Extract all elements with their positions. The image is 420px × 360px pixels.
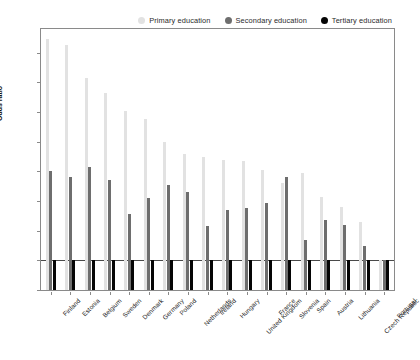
x-axis-tick-mark: [168, 292, 169, 295]
y-axis-tick: 3.0: [0, 201, 40, 202]
bar: [343, 225, 346, 290]
bar-group: [80, 29, 100, 290]
x-axis-tick-label: Finland: [61, 297, 81, 317]
bar: [226, 210, 229, 290]
legend-label: Primary education: [149, 16, 210, 25]
x-axis-tick-mark: [384, 292, 385, 295]
bar: [347, 260, 350, 290]
bar: [324, 220, 327, 290]
bar: [265, 203, 268, 290]
x-axis-tick-mark: [110, 292, 111, 295]
x-axis-tick-label: Austria: [335, 297, 355, 317]
bar: [269, 260, 272, 290]
x-axis-tick-mark: [286, 292, 287, 295]
bar-group: [178, 29, 198, 290]
bar: [206, 226, 209, 290]
bar: [112, 260, 115, 290]
bar: [245, 208, 248, 290]
bar-group: [355, 29, 375, 290]
bar: [49, 171, 52, 290]
bar: [379, 260, 382, 290]
y-axis-tick: 5.0: [0, 142, 40, 143]
y-axis-tick-mark: [37, 290, 40, 291]
bar-group: [237, 29, 257, 290]
bar: [65, 45, 68, 290]
x-axis-tick-mark: [325, 292, 326, 295]
bar-group: [316, 29, 336, 290]
bar: [124, 111, 127, 290]
x-axis-tick-mark: [306, 292, 307, 295]
x-axis-tick-label: Lithuania: [357, 297, 381, 321]
bar: [128, 214, 131, 290]
x-axis-tick-mark: [51, 292, 52, 295]
bar-group: [374, 29, 394, 290]
x-axis-tick-mark: [149, 292, 150, 295]
y-axis-tick-mark: [37, 112, 40, 113]
bar: [104, 93, 107, 290]
bar: [151, 260, 154, 290]
y-axis-tick: 0.0: [0, 290, 40, 291]
y-axis-tick: 1.0: [0, 260, 40, 261]
y-axis-tick: 8.0: [0, 53, 40, 54]
bar-group: [218, 29, 238, 290]
x-axis-tick-mark: [247, 292, 248, 295]
y-axis-tick-mark: [37, 142, 40, 143]
bar: [144, 119, 147, 290]
bar: [92, 260, 95, 290]
bar: [88, 167, 91, 290]
x-axis-tick-mark: [129, 292, 130, 295]
y-axis-tick-mark: [37, 171, 40, 172]
bar: [108, 180, 111, 290]
legend-entry[interactable]: Secondary education: [225, 16, 307, 25]
bar: [170, 260, 173, 290]
bar: [281, 183, 284, 290]
bar-group: [61, 29, 81, 290]
legend-entry[interactable]: Primary education: [138, 16, 210, 25]
x-axis-tick-mark: [70, 292, 71, 295]
x-axis-tick-mark: [90, 292, 91, 295]
bar-group: [139, 29, 159, 290]
bar: [308, 260, 311, 290]
legend-marker-icon: [138, 17, 145, 24]
bar: [72, 260, 75, 290]
x-axis-tick-label: Portugal: [395, 297, 417, 319]
bar-group: [257, 29, 277, 290]
x-axis-tick-mark: [267, 292, 268, 295]
bar: [304, 240, 307, 290]
legend-marker-icon: [321, 17, 328, 24]
x-axis-tick-label: Estonia: [81, 297, 102, 318]
bar-group: [159, 29, 179, 290]
legend-entry[interactable]: Tertiary education: [321, 16, 392, 25]
bar: [285, 177, 288, 290]
x-axis-tick-mark: [188, 292, 189, 295]
bar: [261, 170, 264, 290]
bar: [288, 260, 291, 290]
bar: [46, 39, 49, 290]
bar: [202, 157, 205, 290]
bar-group: [335, 29, 355, 290]
y-axis-tick-mark: [37, 231, 40, 232]
chart-legend: Primary educationSecondary educationTert…: [140, 12, 392, 28]
bar: [210, 260, 213, 290]
x-axis-tick-label: United Kingdom: [265, 297, 303, 335]
x-axis-tick-label: Hungary: [239, 297, 262, 320]
bar: [69, 177, 72, 290]
y-axis-tick: 7.0: [0, 82, 40, 83]
bar: [183, 154, 186, 290]
bar-group: [276, 29, 296, 290]
bar: [249, 260, 252, 290]
legend-marker-icon: [225, 17, 232, 24]
bar: [327, 260, 330, 290]
bar: [320, 197, 323, 290]
x-axis-tick-mark: [227, 292, 228, 295]
bar: [190, 260, 193, 290]
bar: [367, 260, 370, 290]
bar: [53, 260, 56, 290]
bar: [229, 260, 232, 290]
bar: [85, 78, 88, 290]
bar-group: [296, 29, 316, 290]
x-axis-tick-mark: [345, 292, 346, 295]
bar-group: [198, 29, 218, 290]
bar: [186, 192, 189, 290]
